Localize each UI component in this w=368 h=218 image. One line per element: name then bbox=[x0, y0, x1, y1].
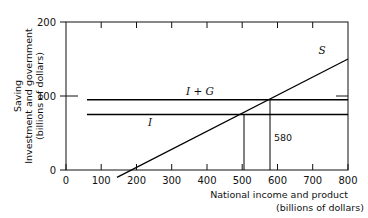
x-tick-label-700: 700 bbox=[303, 175, 322, 186]
x-tick-label-0: 0 bbox=[63, 175, 69, 186]
y-tick-label-0: 0 bbox=[50, 165, 56, 176]
x-axis-title-line2: (billions of dollars) bbox=[276, 202, 364, 213]
curve-label-investment: I bbox=[147, 116, 153, 128]
x-tick-label-500: 500 bbox=[233, 175, 252, 186]
y-axis-title-line2: Investment and government bbox=[23, 28, 34, 164]
x-tick-label-100: 100 bbox=[92, 175, 111, 186]
top-axis-ticks bbox=[101, 22, 313, 28]
x-axis-ticks bbox=[66, 164, 348, 170]
curve-label-saving: S bbox=[318, 44, 325, 56]
x-tick-label-300: 300 bbox=[162, 175, 181, 186]
y-axis-title-line1: Saving bbox=[12, 80, 23, 112]
curve-label-investment-plus-government: I + G bbox=[185, 85, 214, 97]
x-tick-label-800: 800 bbox=[338, 175, 357, 186]
figure-container: 200 100 0 0 100 200 300 400 500 600 700 … bbox=[0, 0, 368, 218]
chart-svg: 200 100 0 0 100 200 300 400 500 600 700 … bbox=[0, 0, 368, 218]
annotation-580: 580 bbox=[274, 132, 292, 143]
x-tick-label-400: 400 bbox=[197, 175, 216, 186]
y-axis-title-line3: (billions of dollars) bbox=[34, 52, 45, 140]
y-tick-label-200: 200 bbox=[37, 17, 56, 28]
x-tick-label-200: 200 bbox=[127, 175, 146, 186]
x-tick-label-600: 600 bbox=[268, 175, 287, 186]
x-axis-title-line1: National income and product bbox=[210, 189, 348, 200]
